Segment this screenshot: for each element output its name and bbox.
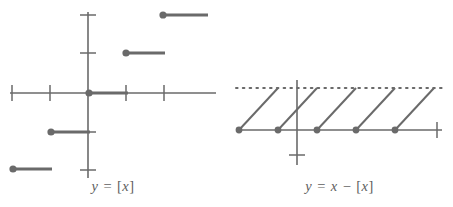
- caption-y-symbol: y: [92, 178, 99, 194]
- caption-equals-symbol: =: [102, 178, 113, 194]
- fractional-part-caption: y = x − [x]: [226, 178, 453, 195]
- caption-minus-symbol: −: [342, 178, 353, 194]
- caption-close-bracket: ]: [129, 178, 134, 194]
- ramp-segment-0: [356, 88, 395, 130]
- floor-function-caption: y = [x]: [0, 178, 226, 195]
- figure-container: y = [x]: [0, 0, 453, 207]
- closed-endpoint-1: [392, 127, 399, 134]
- fractional-part-panel: y = x − [x]: [226, 0, 453, 207]
- closed-endpoint-0: [353, 127, 360, 134]
- closed-endpoint-0: [85, 89, 92, 96]
- caption-y-symbol: y: [305, 178, 312, 194]
- ramp-segment-minus-1: [317, 88, 356, 130]
- closed-endpoint-minus-3: [236, 127, 243, 134]
- ramp-segment-1: [395, 88, 434, 130]
- floor-function-plot: [0, 0, 226, 207]
- floor-function-panel: y = [x]: [0, 0, 226, 207]
- closed-endpoint-minus-2: [275, 127, 282, 134]
- closed-endpoint-minus-1: [314, 127, 321, 134]
- caption-equals-symbol: =: [316, 178, 327, 194]
- closed-endpoint-2: [159, 11, 166, 18]
- caption-x-symbol-first: x: [331, 178, 338, 194]
- caption-close-bracket: ]: [368, 178, 373, 194]
- ramp-segment-minus-3: [239, 88, 278, 130]
- fractional-part-plot: [226, 0, 453, 207]
- closed-endpoint-1: [122, 49, 129, 56]
- closed-endpoint-minus-2: [9, 165, 16, 172]
- closed-endpoint-minus-1: [47, 128, 54, 135]
